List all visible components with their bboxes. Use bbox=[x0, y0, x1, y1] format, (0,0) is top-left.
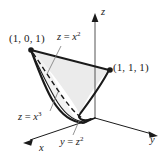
label-point-1-1-1: (1, 1, 1) bbox=[113, 62, 149, 73]
axis-x-arrowhead bbox=[23, 139, 33, 146]
axis-label-y: y bbox=[150, 135, 155, 146]
label-curve-z-equals-x-squared: z = x2 bbox=[57, 32, 80, 43]
vertex-dot-1-0-1 bbox=[28, 47, 34, 53]
label-yz2-exponent: 2 bbox=[80, 135, 84, 143]
leader-line-y-z-squared bbox=[73, 121, 79, 135]
label-zx2-exponent: 2 bbox=[77, 30, 81, 38]
label-zx2-op: = bbox=[61, 31, 72, 42]
label-zx3-op: = bbox=[22, 111, 33, 122]
three-d-surface-diagram: (1, 0, 1) (1, 1, 1) z = x2 z = x3 y = z2… bbox=[0, 0, 167, 159]
label-curve-z-equals-x-cubed: z = x3 bbox=[18, 112, 41, 123]
label-point-1-0-1: (1, 0, 1) bbox=[9, 33, 45, 44]
axis-z-arrowhead bbox=[92, 13, 99, 22]
label-yz2-op: = bbox=[65, 136, 76, 147]
vertex-dot-1-1-1 bbox=[107, 67, 113, 73]
label-curve-y-equals-z-squared: y = z2 bbox=[60, 137, 83, 148]
label-zx3-exponent: 3 bbox=[38, 110, 42, 118]
axis-y-line bbox=[95, 118, 152, 134]
axis-label-x: x bbox=[39, 143, 44, 154]
diagram-canvas bbox=[0, 0, 167, 159]
axis-label-z: z bbox=[101, 7, 105, 18]
